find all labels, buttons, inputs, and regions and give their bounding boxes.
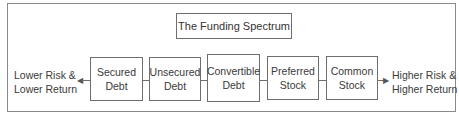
high-risk-line-1: Higher Risk & [392,68,457,82]
connector [82,80,90,81]
node-label: Preferred [271,64,315,78]
node-convertible-debt: Convertible Debt [207,54,260,102]
node-label: Convertible [207,64,260,78]
node-preferred-stock: Preferred Stock [267,56,319,100]
node-label: Debt [105,79,127,93]
low-risk-line-1: Lower Risk & [14,68,77,82]
node-unsecured-debt: Unsecured Debt [149,57,201,101]
node-secured-debt: Secured Debt [90,57,143,101]
node-common-stock: Common Stock [326,56,378,100]
diagram-title: The Funding Spectrum [176,13,292,39]
node-label: Debt [222,78,244,92]
node-label: Stock [339,78,365,92]
node-label: Stock [280,78,306,92]
low-risk-line-2: Lower Return [14,82,77,96]
low-risk-label: Lower Risk & Lower Return [14,68,77,96]
high-risk-line-2: Higher Return [392,82,457,96]
arrow-right-icon: ▶ [383,77,389,84]
node-label: Common [331,64,374,78]
node-label: Secured [97,65,136,79]
connector [260,80,267,81]
node-label: Debt [164,79,186,93]
title-text: The Funding Spectrum [178,20,290,32]
node-label: Unsecured [150,65,201,79]
high-risk-label: Higher Risk & Higher Return [392,68,457,96]
connector [319,80,326,81]
